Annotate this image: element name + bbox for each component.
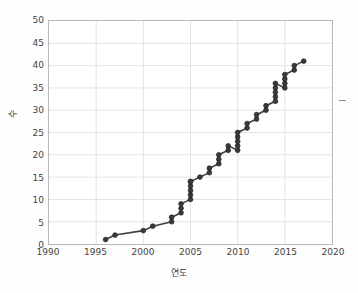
x-tick-label: 2020 <box>310 248 356 257</box>
y-tick-label: 40 <box>4 61 44 70</box>
right-edge-tick-artifact <box>339 100 346 101</box>
y-tick-label: 30 <box>4 106 44 115</box>
plot-area <box>48 20 333 245</box>
x-tick-label: 2005 <box>168 248 214 257</box>
x-tick-label: 1995 <box>73 248 119 257</box>
y-tick-label: 35 <box>4 83 44 92</box>
y-tick-label: 10 <box>4 196 44 205</box>
x-tick-label: 1990 <box>25 248 71 257</box>
y-tick-label: 5 <box>4 218 44 227</box>
x-axis-title: 연도 <box>0 266 358 279</box>
x-tick-label: 2000 <box>120 248 166 257</box>
x-tick-label: 2010 <box>215 248 261 257</box>
y-tick-label: 20 <box>4 151 44 160</box>
y-tick-label: 50 <box>4 16 44 25</box>
data-series-cumulative-count <box>49 21 332 244</box>
y-tick-label: 45 <box>4 38 44 47</box>
chart-figure: 수 05101520253035404550199019952000200520… <box>0 0 358 293</box>
y-tick-label: 25 <box>4 128 44 137</box>
y-tick-label: 15 <box>4 173 44 182</box>
x-tick-label: 2015 <box>263 248 309 257</box>
